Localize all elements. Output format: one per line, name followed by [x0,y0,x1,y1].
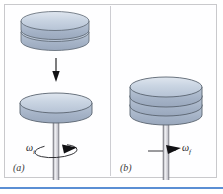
panel-label-a: (a) [13,162,25,173]
omega-symbol-initial: ω [26,142,33,153]
omega-subscript-final: f [189,148,191,156]
bottom-accent-rule [0,187,223,189]
drop-arrow-icon [52,58,59,82]
physics-figure-angular-momentum: ωi ωf (a) (b) [0,0,223,194]
stacked-disk-top [130,77,202,107]
omega-subscript-initial: i [33,148,35,156]
panel-a-mounted-disk [20,93,92,123]
panel-label-b: (b) [120,162,132,173]
figure-artwork [0,0,223,194]
falling-disk-upper [21,12,89,40]
angular-velocity-initial-label: ωi [26,142,35,156]
panel-a-falling-disk-stack [21,12,89,51]
omega-symbol-final: ω [182,142,189,153]
panel-b-disk-stack [130,77,202,125]
angular-velocity-final-label: ωf [182,142,191,156]
